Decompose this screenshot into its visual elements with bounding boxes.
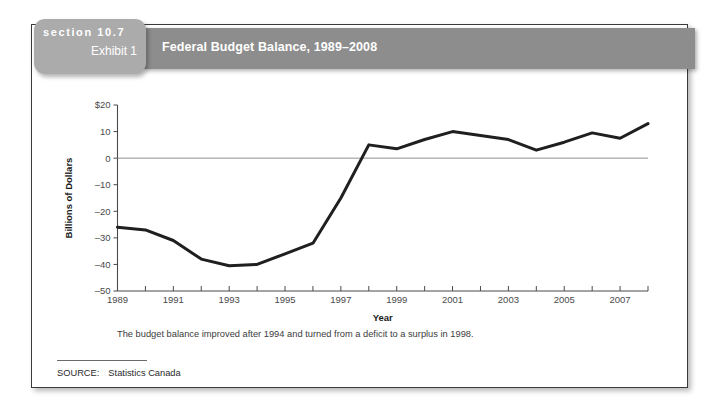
source-label: SOURCE: — [57, 368, 99, 378]
section-number-label: section 10.7 — [43, 26, 125, 38]
exhibit-banner: Federal Budget Balance, 1989–2008 — [143, 28, 695, 69]
chart-caption: The budget balance improved after 1994 a… — [117, 329, 474, 339]
exhibit-title: Federal Budget Balance, 1989–2008 — [162, 40, 377, 54]
exhibit-number-label: Exhibit 1 — [91, 44, 137, 58]
source-value: Statistics Canada — [108, 368, 180, 378]
source-divider — [57, 360, 147, 361]
source-line: SOURCE:Statistics Canada — [57, 368, 181, 378]
section-tab: section 10.7 Exhibit 1 — [34, 19, 146, 74]
